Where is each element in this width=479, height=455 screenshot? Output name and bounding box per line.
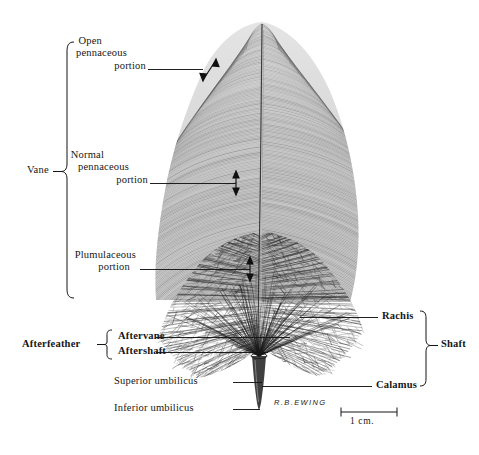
label-aftervane-text: Aftervane — [118, 330, 165, 341]
label-inferior-umbilicus: Inferior umbilicus — [114, 402, 194, 414]
scale-bar-caption: 1 cm. — [350, 416, 374, 426]
label-open-pennaceous-line2: pennaceous — [24, 47, 146, 59]
label-calamus: Calamus — [376, 379, 417, 391]
label-aftershaft-text: Aftershaft — [118, 345, 166, 356]
open-pennaceous-arrow — [200, 59, 219, 81]
label-open-pennaceous-line3: portion — [24, 60, 146, 72]
label-rachis: Rachis — [382, 310, 414, 322]
label-normal-pennaceous-line1: Normal — [26, 149, 148, 161]
afterfeather-bracket — [97, 330, 112, 359]
label-aftervane: Aftervane — [118, 330, 165, 342]
shaft-bracket — [420, 311, 438, 386]
label-normal-pennaceous-line3: portion — [26, 174, 148, 186]
label-superior-umbilicus-text: Superior umbilicus — [114, 375, 198, 386]
label-normal-pennaceous-line2: pennaceous — [26, 161, 148, 173]
plumulaceous-arrow — [247, 257, 253, 281]
label-normal-pennaceous-portion: Normal pennaceous portion — [26, 149, 148, 186]
label-calamus-text: Calamus — [376, 379, 417, 390]
normal-pennaceous-arrow — [233, 171, 239, 195]
label-afterfeather: Afterfeather — [22, 338, 80, 350]
artist-signature-text: R.B.EWING — [274, 398, 327, 407]
label-shaft-text: Shaft — [441, 338, 466, 349]
label-rachis-text: Rachis — [382, 310, 414, 321]
label-inferior-umbilicus-text: Inferior umbilicus — [114, 402, 194, 413]
scale-bar-caption-text: 1 cm. — [350, 416, 374, 426]
label-superior-umbilicus: Superior umbilicus — [114, 375, 198, 387]
label-plumulaceous-portion: Plumulaceous portion — [18, 249, 136, 274]
label-afterfeather-text: Afterfeather — [22, 338, 80, 349]
feather-anatomy-figure: Vane Open pennaceous portion Normal penn… — [0, 0, 479, 455]
label-plumulaceous-line1: Plumulaceous — [18, 249, 136, 261]
label-aftershaft: Aftershaft — [118, 345, 166, 357]
label-open-pennaceous-portion: Open pennaceous portion — [24, 35, 146, 72]
label-plumulaceous-line2: portion — [18, 261, 136, 273]
label-shaft: Shaft — [441, 338, 466, 350]
label-open-pennaceous-line1: Open — [24, 35, 146, 47]
artist-signature: R.B.EWING — [274, 398, 327, 407]
